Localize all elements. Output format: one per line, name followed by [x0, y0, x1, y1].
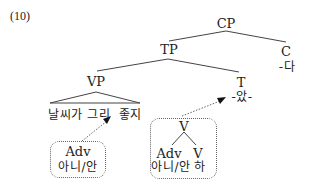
arrow-head-icon: [217, 97, 226, 104]
adv-form-inner: 아니/안: [151, 161, 190, 173]
node-adv: Adv: [156, 147, 181, 160]
node-v: V: [193, 147, 202, 160]
node-vp: VP: [87, 75, 105, 88]
vp-terminal: 날씨가 그리 좋지: [48, 109, 141, 121]
node-c: C: [281, 45, 291, 58]
morpheme-t: -았-: [231, 91, 252, 103]
node-cp: CP: [217, 17, 236, 30]
node-tp: TP: [160, 43, 177, 56]
morpheme-c: -다: [279, 61, 295, 73]
node-t: T: [237, 76, 246, 89]
v-form-inner: 하: [194, 161, 206, 173]
node-v-head: V: [179, 120, 188, 133]
adv-category: Adv: [65, 145, 90, 158]
adv-form: 아니/안: [58, 161, 97, 173]
